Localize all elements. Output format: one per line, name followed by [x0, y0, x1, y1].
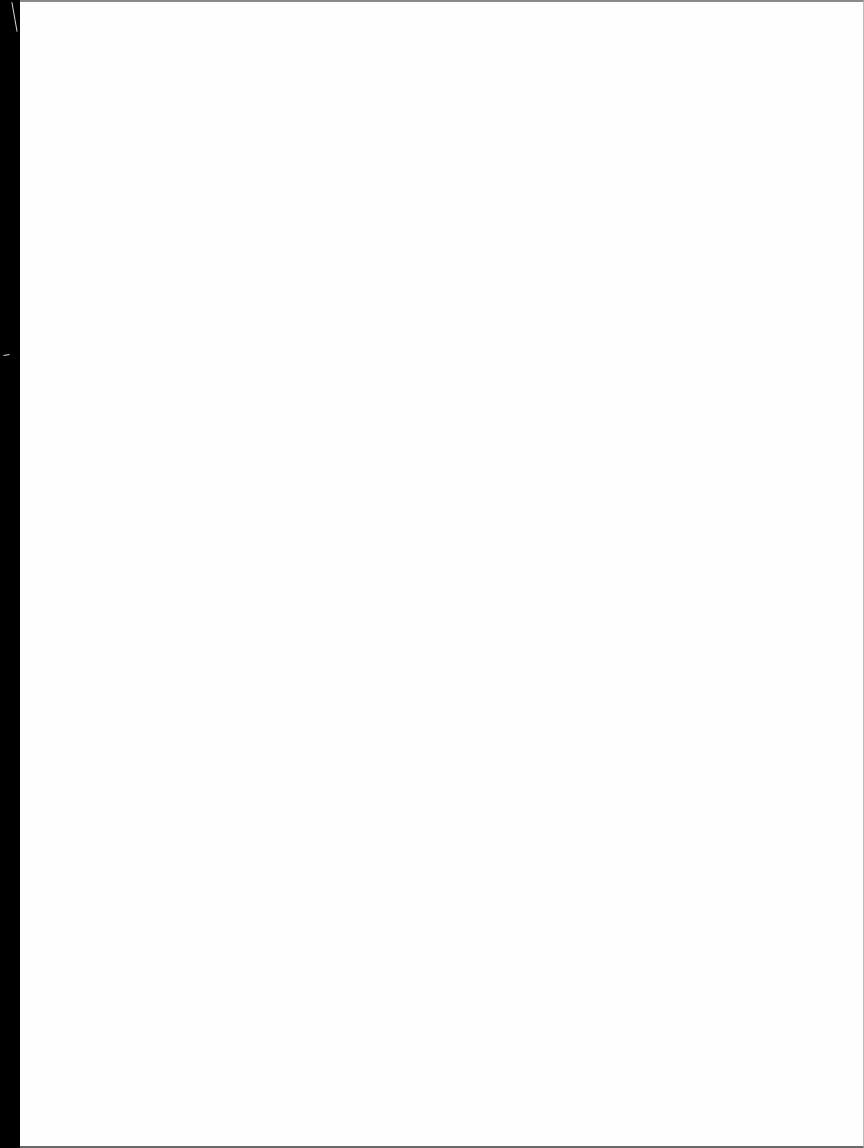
scan-artifact: [11, 2, 17, 32]
scan-dark-margin: [0, 0, 20, 1148]
blank-page: [20, 0, 864, 1148]
scan-artifact: [3, 354, 9, 356]
